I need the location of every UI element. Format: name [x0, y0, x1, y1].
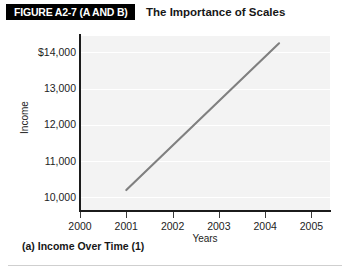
x-tick-mark	[265, 212, 266, 218]
income-line-series	[80, 36, 330, 210]
x-tick-label: 2005	[288, 220, 334, 232]
x-tick-label: 2002	[150, 220, 196, 232]
y-axis-title: Income	[19, 88, 30, 148]
x-tick-label: 2001	[103, 220, 149, 232]
y-tick-label: 13,000	[6, 83, 76, 94]
x-tick-mark	[311, 212, 312, 218]
x-tick-label: 2000	[57, 220, 103, 232]
x-tick-mark	[80, 212, 81, 218]
y-tick-label: $14,000	[6, 47, 76, 58]
chart-figure: $14,00013,00012,00011,00010,000 20002001…	[0, 26, 350, 238]
y-tick-label: 10,000	[6, 192, 76, 203]
figure-header: FIGURE A2-7 (A AND B) The Importance of …	[0, 0, 350, 26]
plot-area	[80, 36, 330, 210]
chart-caption: (a) Income Over Time (1)	[22, 240, 144, 252]
x-tick-label: 2004	[242, 220, 288, 232]
y-tick-label: 11,000	[6, 156, 76, 167]
x-tick-mark	[219, 212, 220, 218]
figure-number-badge: FIGURE A2-7 (A AND B)	[6, 4, 135, 20]
x-tick-mark	[173, 212, 174, 218]
y-tick-label: 12,000	[6, 119, 76, 130]
y-axis-line	[79, 34, 81, 212]
x-tick-label: 2003	[196, 220, 242, 232]
x-axis-line	[79, 210, 331, 212]
series-polyline	[126, 43, 279, 190]
x-tick-mark	[126, 212, 127, 218]
figure-title: The Importance of Scales	[146, 4, 285, 20]
bottom-divider	[8, 265, 342, 266]
